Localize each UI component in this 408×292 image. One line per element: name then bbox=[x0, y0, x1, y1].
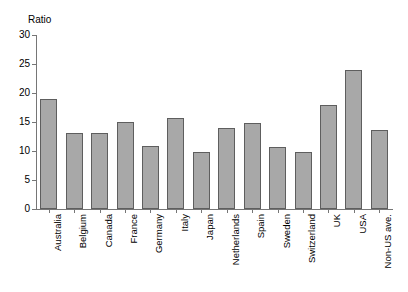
y-axis-tick-label: 0 bbox=[24, 204, 30, 214]
bar bbox=[269, 147, 286, 209]
x-axis-tick-mark bbox=[354, 209, 355, 213]
x-axis-tick-label: USA bbox=[358, 214, 368, 234]
x-axis-tick-label: Non-US ave. bbox=[383, 214, 393, 268]
x-axis-line bbox=[36, 209, 393, 210]
x-axis-tick-label-text: Non-US ave. bbox=[383, 214, 393, 268]
bar bbox=[117, 122, 134, 209]
y-axis-tick-label: 20 bbox=[19, 88, 30, 98]
bar bbox=[167, 118, 184, 209]
bar bbox=[193, 152, 210, 209]
x-axis-tick-mark bbox=[278, 209, 279, 213]
x-axis-tick-mark bbox=[150, 209, 151, 213]
bar bbox=[66, 133, 83, 209]
bar-series bbox=[36, 35, 392, 209]
x-axis-tick-label: Australia bbox=[53, 214, 63, 251]
bar bbox=[244, 123, 261, 209]
y-axis-title: Ratio bbox=[28, 14, 51, 26]
x-axis-tick-label: Netherlands bbox=[231, 214, 241, 265]
x-axis-tick-mark bbox=[303, 209, 304, 213]
x-axis-tick-mark bbox=[176, 209, 177, 213]
x-axis-tick-mark bbox=[49, 209, 50, 213]
x-axis-tick-mark bbox=[379, 209, 380, 213]
bar-chart: Ratio 051015202530 AustraliaBelgiumCanad… bbox=[0, 0, 408, 292]
x-axis-tick-label-text: France bbox=[129, 214, 139, 244]
x-axis-tick-label-text: UK bbox=[332, 214, 342, 227]
bar bbox=[142, 146, 159, 209]
bar bbox=[40, 99, 57, 209]
y-axis-tick-label: 10 bbox=[19, 146, 30, 156]
x-axis-tick-label: Belgium bbox=[78, 214, 88, 248]
x-axis-tick-label: Spain bbox=[256, 214, 266, 238]
x-axis-tick-mark bbox=[100, 209, 101, 213]
x-axis-labels: AustraliaBelgiumCanadaFranceGermanyItaly… bbox=[36, 214, 392, 292]
plot-area: 051015202530 bbox=[36, 35, 392, 209]
x-axis-tick-mark bbox=[252, 209, 253, 213]
x-axis-tick-label-text: Germany bbox=[154, 214, 164, 253]
y-axis-tick-label: 30 bbox=[19, 30, 30, 40]
x-axis-tick-label: Japan bbox=[205, 214, 215, 240]
x-axis-tick-label: Italy bbox=[180, 214, 190, 231]
x-axis-tick-label-text: Spain bbox=[256, 214, 266, 238]
x-axis-tick-label: Switzerland bbox=[307, 214, 317, 263]
y-axis-tick-label: 25 bbox=[19, 59, 30, 69]
bar bbox=[320, 105, 337, 209]
x-axis-tick-label: Canada bbox=[104, 214, 114, 247]
y-axis-tick-label: 15 bbox=[19, 117, 30, 127]
x-axis-tick-label-text: Canada bbox=[104, 214, 114, 247]
x-axis-tick-label-text: Sweden bbox=[282, 214, 292, 248]
x-axis-tick-label-text: Italy bbox=[180, 214, 190, 231]
x-axis-tick-mark bbox=[125, 209, 126, 213]
bar bbox=[91, 133, 108, 209]
x-axis-tick-label-text: USA bbox=[358, 214, 368, 234]
bar bbox=[371, 130, 388, 209]
x-axis-tick-mark bbox=[328, 209, 329, 213]
x-axis-tick-label: Germany bbox=[154, 214, 164, 253]
bar bbox=[345, 70, 362, 209]
bar bbox=[295, 152, 312, 209]
x-axis-tick-label-text: Australia bbox=[53, 214, 63, 251]
x-axis-tick-label-text: Belgium bbox=[78, 214, 88, 248]
x-axis-tick-label: France bbox=[129, 214, 139, 244]
x-axis-tick-label: Sweden bbox=[282, 214, 292, 248]
x-axis-tick-mark bbox=[227, 209, 228, 213]
bar bbox=[218, 128, 235, 209]
y-axis-tick-label: 5 bbox=[24, 175, 30, 185]
x-axis-tick-mark bbox=[74, 209, 75, 213]
x-axis-tick-mark bbox=[201, 209, 202, 213]
x-axis-tick-label-text: Netherlands bbox=[231, 214, 241, 265]
x-axis-tick-label-text: Switzerland bbox=[307, 214, 317, 263]
y-axis-tick-mark bbox=[32, 209, 36, 210]
x-axis-tick-label: UK bbox=[332, 214, 342, 227]
x-axis-tick-label-text: Japan bbox=[205, 214, 215, 240]
